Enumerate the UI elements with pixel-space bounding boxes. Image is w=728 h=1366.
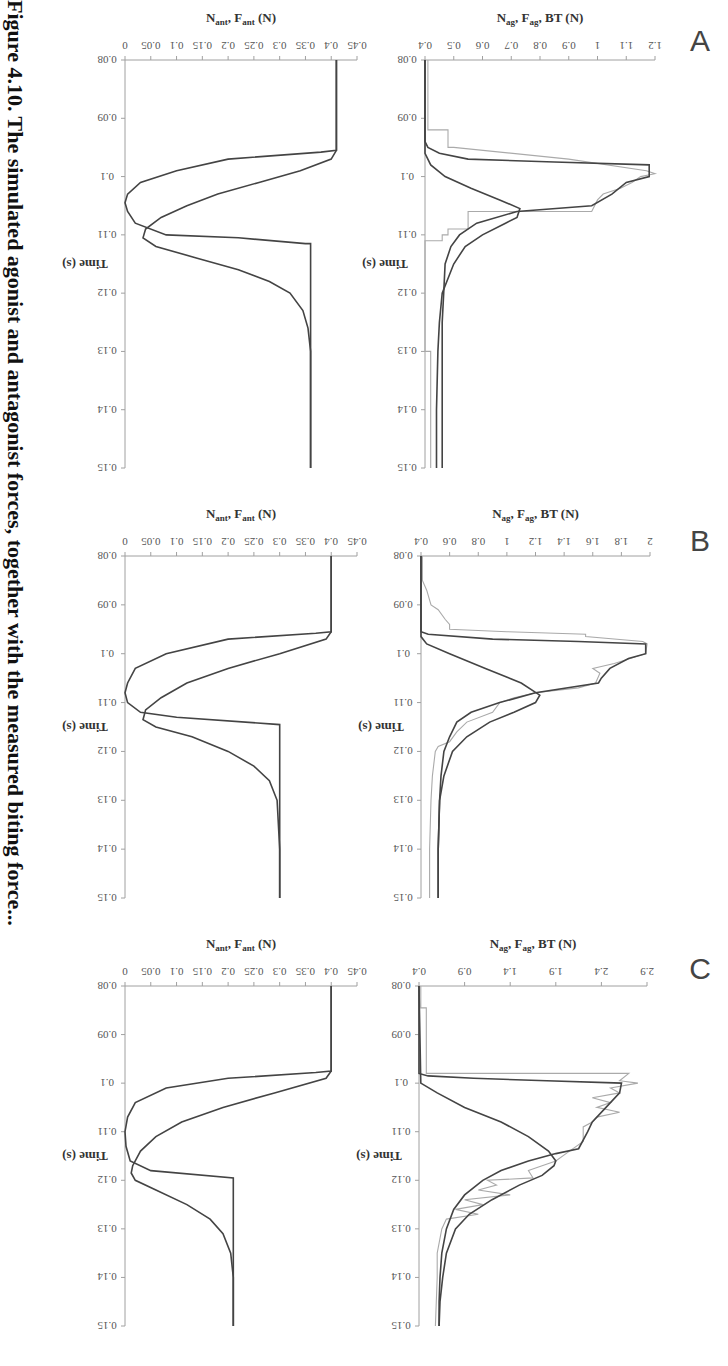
time-tick-label: 0.15 [97, 892, 117, 904]
value-axis-label: Nag, Fag, BT (N) [492, 506, 579, 523]
value-tick-label: 0 [122, 40, 128, 52]
series-n-ag-line [421, 556, 540, 898]
panel-label-a: A [690, 24, 710, 57]
value-tick-label: 0.6 [475, 40, 489, 52]
time-tick-label: 0.15 [393, 892, 413, 904]
time-tick-label: 0.08 [97, 550, 117, 562]
value-axis-label: Nant, Fant (N) [206, 506, 276, 523]
series-n-ag-line [425, 60, 520, 468]
time-tick-label: 0.13 [97, 794, 117, 806]
series-bt-line [421, 986, 638, 1326]
value-tick-label: 1 [595, 40, 601, 52]
value-tick-label: 0.45 [347, 966, 367, 978]
value-tick-label: 0.25 [244, 966, 264, 978]
time-tick-label: 0.11 [98, 1126, 117, 1138]
value-tick-label: 0.35 [295, 536, 315, 548]
value-tick-label: 0.05 [141, 40, 161, 52]
value-tick-label: 2 [647, 536, 653, 548]
time-tick-label: 0.11 [98, 697, 117, 709]
time-tick-label: 0.09 [393, 599, 413, 611]
figure-canvas: 0.40.50.60.70.80.911.11.20.080.090.10.11… [0, 0, 728, 1366]
value-tick-label: 0.4 [414, 536, 428, 548]
series-f-ag-line [421, 556, 646, 898]
value-tick-label: 2.9 [640, 966, 654, 978]
value-tick-label: 0.05 [141, 966, 161, 978]
value-tick-label: 1.4 [557, 536, 571, 548]
value-tick-label: 0.5 [446, 40, 460, 52]
series-bt-line [422, 556, 647, 898]
time-axis-label: Time (s) [62, 257, 108, 272]
value-tick-label: 1 [504, 536, 510, 548]
value-tick-label: 0.4 [324, 536, 338, 548]
panel-label-c: C [689, 952, 711, 985]
time-tick-label: 0.13 [391, 1223, 411, 1235]
time-tick-label: 0.13 [97, 1223, 117, 1235]
value-tick-label: 0 [122, 536, 128, 548]
value-tick-label: 0.4 [418, 40, 432, 52]
value-tick-label: 0.3 [272, 536, 286, 548]
series-n-ant-line [125, 986, 331, 1326]
time-tick-label: 0.12 [391, 1174, 410, 1186]
panel-b-antagonist-chart: 00.050.10.150.20.250.30.350.40.450.080.0… [62, 506, 366, 904]
value-tick-label: 0.05 [141, 536, 161, 548]
time-tick-label: 0.08 [97, 980, 117, 992]
value-tick-label: 1.4 [503, 966, 517, 978]
time-tick-label: 0.1 [400, 171, 414, 183]
value-tick-label: 0.3 [272, 966, 286, 978]
value-tick-label: 0.4 [412, 966, 426, 978]
time-tick-label: 0.14 [393, 843, 413, 855]
time-axis-label: Time (s) [358, 720, 404, 735]
series-f-ant-line [143, 60, 336, 468]
time-tick-label: 0.12 [397, 287, 416, 299]
time-tick-label: 0.13 [397, 345, 417, 357]
figure-caption: Figure 4.10. The simulated agonist and a… [3, 0, 28, 926]
value-tick-label: 0.35 [295, 40, 315, 52]
time-tick-label: 0.15 [397, 462, 417, 474]
time-tick-label: 0.09 [391, 1029, 411, 1041]
value-tick-label: 0.1 [170, 536, 184, 548]
value-tick-label: 1.2 [529, 536, 543, 548]
time-tick-label: 0.14 [391, 1271, 411, 1283]
time-tick-label: 0.1 [394, 1077, 408, 1089]
time-tick-label: 0.09 [97, 599, 117, 611]
time-tick-label: 0.14 [397, 404, 417, 416]
time-tick-label: 0.1 [396, 648, 410, 660]
value-tick-label: 1.9 [548, 966, 562, 978]
time-tick-label: 0.13 [393, 794, 413, 806]
time-tick-label: 0.14 [97, 1271, 117, 1283]
value-axis-label: Nag, Fag, BT (N) [497, 10, 584, 27]
time-tick-label: 0.12 [97, 287, 116, 299]
time-axis-label: Time (s) [62, 720, 108, 735]
time-tick-label: 0.11 [392, 1126, 411, 1138]
value-tick-label: 0.6 [442, 536, 456, 548]
value-tick-label: 0.9 [457, 966, 471, 978]
value-tick-label: 0.1 [170, 966, 184, 978]
value-tick-label: 0.15 [192, 40, 212, 52]
time-tick-label: 0.11 [398, 229, 417, 241]
value-tick-label: 0.15 [192, 536, 212, 548]
value-tick-label: 1.8 [614, 536, 628, 548]
time-tick-label: 0.13 [97, 345, 117, 357]
value-tick-label: 0.8 [533, 40, 547, 52]
series-f-ag-line [419, 986, 622, 1326]
value-tick-label: 0.7 [504, 40, 518, 52]
time-tick-label: 0.1 [100, 1077, 114, 1089]
value-tick-label: 0.4 [324, 966, 338, 978]
time-tick-label: 0.15 [97, 1320, 117, 1332]
value-axis-label: Nant, Fant (N) [206, 936, 276, 953]
value-tick-label: 0.35 [295, 966, 315, 978]
series-f-ant-line [131, 986, 331, 1326]
rotated-figure: 0.40.50.60.70.80.911.11.20.080.090.10.11… [0, 0, 728, 1366]
value-tick-label: 0.1 [170, 40, 184, 52]
value-tick-label: 1.6 [585, 536, 599, 548]
value-tick-label: 0.3 [272, 40, 286, 52]
time-tick-label: 0.1 [100, 648, 114, 660]
value-tick-label: 1.1 [619, 40, 633, 52]
series-bt-line [425, 60, 655, 468]
panel-a-agonist-chart: 0.40.50.60.70.80.911.11.20.080.090.10.11… [362, 10, 662, 474]
value-tick-label: 0.4 [324, 40, 338, 52]
value-tick-label: 0.15 [192, 966, 212, 978]
time-tick-label: 0.08 [397, 54, 417, 66]
value-tick-label: 2.4 [594, 966, 608, 978]
panel-b-agonist-chart: 0.40.60.811.21.41.61.820.080.090.10.110.… [358, 506, 653, 904]
